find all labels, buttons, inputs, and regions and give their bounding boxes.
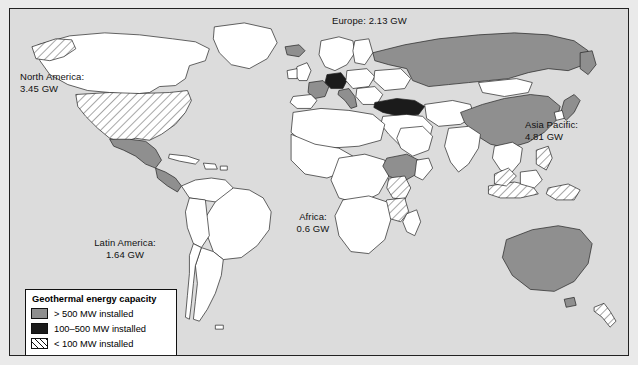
map-legend: Geothermal energy capacity > 500 MW inst… <box>25 289 177 356</box>
label-europe: Europe: 2.13 GW <box>332 15 442 27</box>
legend-item-100-500mw: 100–500 MW installed <box>31 323 171 334</box>
legend-label-100-500mw: 100–500 MW installed <box>54 324 146 334</box>
legend-swatch-dark <box>31 323 48 334</box>
label-africa: Africa: 0.6 GW <box>272 211 354 234</box>
legend-item-over-500mw: > 500 MW installed <box>31 308 171 319</box>
country-ireland <box>287 69 297 79</box>
label-latin-america: Latin America: 1.64 GW <box>72 237 178 260</box>
country-spain-portugal <box>290 95 317 109</box>
legend-label-under-100mw: < 100 MW installed <box>54 339 133 349</box>
legend-title: Geothermal energy capacity <box>32 294 171 304</box>
island-puerto-rico <box>220 166 227 170</box>
island-tasmania <box>564 297 576 307</box>
legend-label-over-500mw: > 500 MW installed <box>54 309 133 319</box>
legend-swatch-gray <box>31 308 48 319</box>
legend-swatch-hatch <box>31 338 48 349</box>
label-asia-pacific: Asia Pacific: 4.81 GW <box>525 119 621 142</box>
map-figure: North America: 3.45 GW Latin America: 1.… <box>0 0 638 365</box>
legend-item-under-100mw: < 100 MW installed <box>31 338 171 349</box>
world-map: North America: 3.45 GW Latin America: 1.… <box>9 8 629 356</box>
island-hispaniola <box>203 163 217 169</box>
label-north-america: North America: 3.45 GW <box>20 71 116 94</box>
island-falklands <box>215 325 223 329</box>
